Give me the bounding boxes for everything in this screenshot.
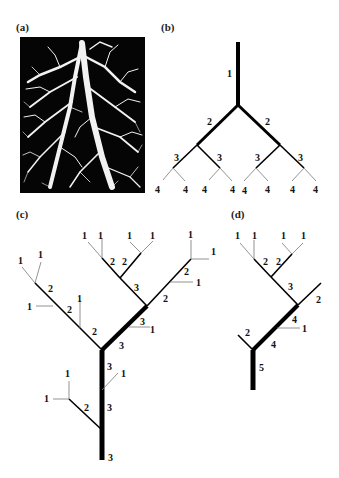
order-label: 3: [108, 452, 113, 463]
order-label: 2: [163, 293, 168, 304]
order-label: 4: [313, 184, 318, 195]
branch-segment: [173, 168, 185, 181]
order-label: 1: [211, 246, 216, 257]
branch-segment: [88, 242, 102, 258]
order-label: 5: [259, 362, 264, 373]
branch-segment: [197, 105, 238, 145]
order-label: 2: [184, 266, 189, 277]
order-label: 2: [265, 116, 270, 127]
order-label: 2: [110, 256, 115, 267]
order-label: 2: [92, 326, 97, 337]
order-label: 3: [217, 152, 222, 163]
branch-segment: [163, 168, 173, 180]
order-label: 2: [207, 116, 212, 127]
panel-label-c: (c): [16, 208, 28, 220]
order-label: 3: [298, 152, 303, 163]
order-label: 1: [77, 293, 82, 304]
order-label: 1: [65, 368, 70, 379]
order-label: 4: [292, 314, 297, 325]
branch-segment: [244, 168, 256, 181]
order-label: 2: [316, 294, 321, 305]
branch-segment: [35, 283, 102, 350]
order-label: 1: [98, 230, 103, 241]
order-label: 3: [140, 316, 145, 327]
branch-segment: [102, 306, 147, 350]
order-label: 1: [227, 68, 232, 79]
order-label: 3: [174, 152, 179, 163]
order-label: 4: [242, 185, 247, 196]
branch-segment: [209, 168, 220, 180]
order-label: 3: [119, 340, 124, 351]
order-label: 1: [82, 230, 87, 241]
tree-c-irregular: 11212121122113112123133111233: [18, 229, 216, 463]
order-label: 1: [27, 301, 32, 312]
order-label: 1: [235, 230, 240, 241]
order-label: 4: [290, 184, 295, 195]
branching-diagrams: 122333344444444 112121211221131121231331…: [0, 0, 339, 478]
branch-segment: [256, 168, 268, 181]
order-label: 1: [44, 393, 49, 404]
order-label: 3: [288, 281, 293, 292]
order-label: 2: [122, 256, 127, 267]
branch-segment: [35, 262, 41, 283]
order-label: 2: [263, 256, 268, 267]
branch-segment: [22, 267, 35, 283]
order-label: 3: [107, 361, 112, 372]
order-label: 4: [265, 184, 270, 195]
branch-segment: [292, 243, 303, 254]
order-label: 1: [121, 368, 126, 379]
order-label: 1: [18, 255, 23, 266]
order-label: 1: [150, 230, 155, 241]
order-label: 3: [134, 282, 139, 293]
order-label: 1: [38, 249, 43, 260]
order-label: 1: [281, 230, 286, 241]
branch-segment: [304, 168, 316, 181]
panel-label-b: (b): [161, 21, 174, 33]
tree-b-symmetric: 122333344444444: [155, 42, 318, 196]
order-label: 1: [188, 229, 193, 240]
order-label: 4: [202, 184, 207, 195]
order-label: 1: [252, 230, 257, 241]
order-label: 1: [302, 323, 307, 334]
branch-segment: [282, 243, 292, 254]
order-label: 2: [84, 402, 89, 413]
branch-segment: [240, 243, 254, 259]
branch-segment: [271, 254, 292, 277]
order-label: 2: [245, 327, 250, 338]
tree-d-horton: 1111223241425: [235, 230, 321, 390]
order-label: 1: [127, 230, 132, 241]
order-label: 1: [301, 230, 306, 241]
order-label: 2: [48, 283, 53, 294]
order-label: 1: [150, 324, 155, 335]
branch-segment: [220, 168, 232, 181]
order-label: 4: [183, 184, 188, 195]
order-label: 3: [107, 402, 112, 413]
branch-segment: [130, 242, 141, 253]
order-label: 2: [67, 304, 72, 315]
order-label: 1: [196, 277, 201, 288]
order-label: 4: [155, 184, 160, 195]
panel-label-a: (a): [16, 21, 29, 33]
order-label: 2: [276, 256, 281, 267]
branch-segment: [292, 168, 304, 181]
branch-segment: [141, 241, 153, 253]
order-label: 3: [255, 152, 260, 163]
branch-segment: [238, 105, 280, 145]
order-label: 4: [230, 184, 235, 195]
panel-label-d: (d): [231, 208, 244, 220]
branch-segment: [271, 277, 298, 305]
order-label: 4: [271, 339, 276, 350]
